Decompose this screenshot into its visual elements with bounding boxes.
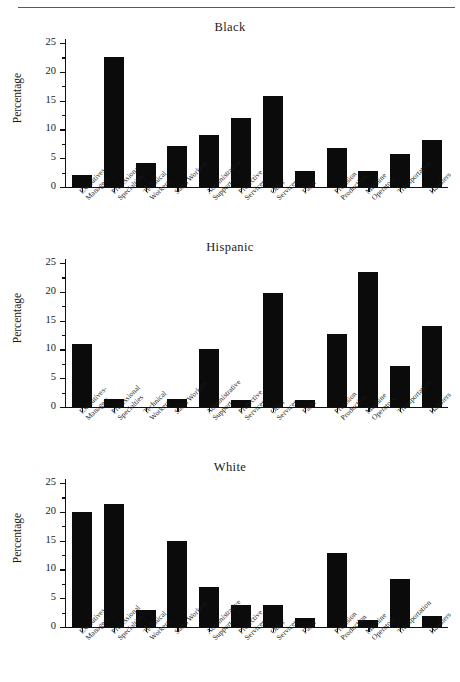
- y-tick-label: 25: [32, 36, 56, 47]
- y-tick-label: 5: [32, 151, 56, 162]
- y-tick-label: 10: [32, 342, 56, 353]
- chart-panel-black: Black Percentage 0510152025 Executives- …: [0, 14, 460, 232]
- y-tick-label: 15: [32, 314, 56, 325]
- chart-title: White: [0, 460, 460, 475]
- bar-slot: [66, 263, 98, 407]
- y-tick-label: 20: [32, 285, 56, 296]
- chart-panel-white: White Percentage 0510152025 Executives- …: [0, 454, 460, 682]
- header-rule: [18, 7, 455, 8]
- y-tick-label: 0: [32, 180, 56, 191]
- figure-page: Black Percentage 0510152025 Executives- …: [0, 0, 460, 682]
- y-tick-label: 0: [32, 620, 56, 631]
- bar-slot: [66, 483, 98, 627]
- y-tick-label: 25: [32, 476, 56, 487]
- y-axis-label: Percentage: [11, 48, 23, 148]
- y-tick-major: [60, 407, 66, 408]
- y-tick-label: 25: [32, 256, 56, 267]
- y-tick-label: 10: [32, 562, 56, 573]
- bar[interactable]: [72, 512, 92, 627]
- chart-title: Black: [0, 20, 460, 35]
- y-tick-label: 15: [32, 534, 56, 545]
- y-tick-label: 5: [32, 591, 56, 602]
- chart-title: Hispanic: [0, 240, 460, 255]
- y-axis-label: Percentage: [11, 268, 23, 368]
- y-tick-label: 20: [32, 65, 56, 76]
- bar-slot: [66, 43, 98, 187]
- y-tick-label: 0: [32, 400, 56, 411]
- y-tick-label: 5: [32, 371, 56, 382]
- chart-panel-hispanic: Hispanic Percentage 0510152025 Executive…: [0, 234, 460, 452]
- y-tick-label: 10: [32, 122, 56, 133]
- y-tick-label: 20: [32, 505, 56, 516]
- y-tick-major: [60, 187, 66, 188]
- y-tick-major: [60, 627, 66, 628]
- x-axis-labels: Executives- ManagersProfessional Special…: [66, 630, 448, 682]
- y-tick-label: 15: [32, 94, 56, 105]
- y-axis-label: Percentage: [11, 488, 23, 588]
